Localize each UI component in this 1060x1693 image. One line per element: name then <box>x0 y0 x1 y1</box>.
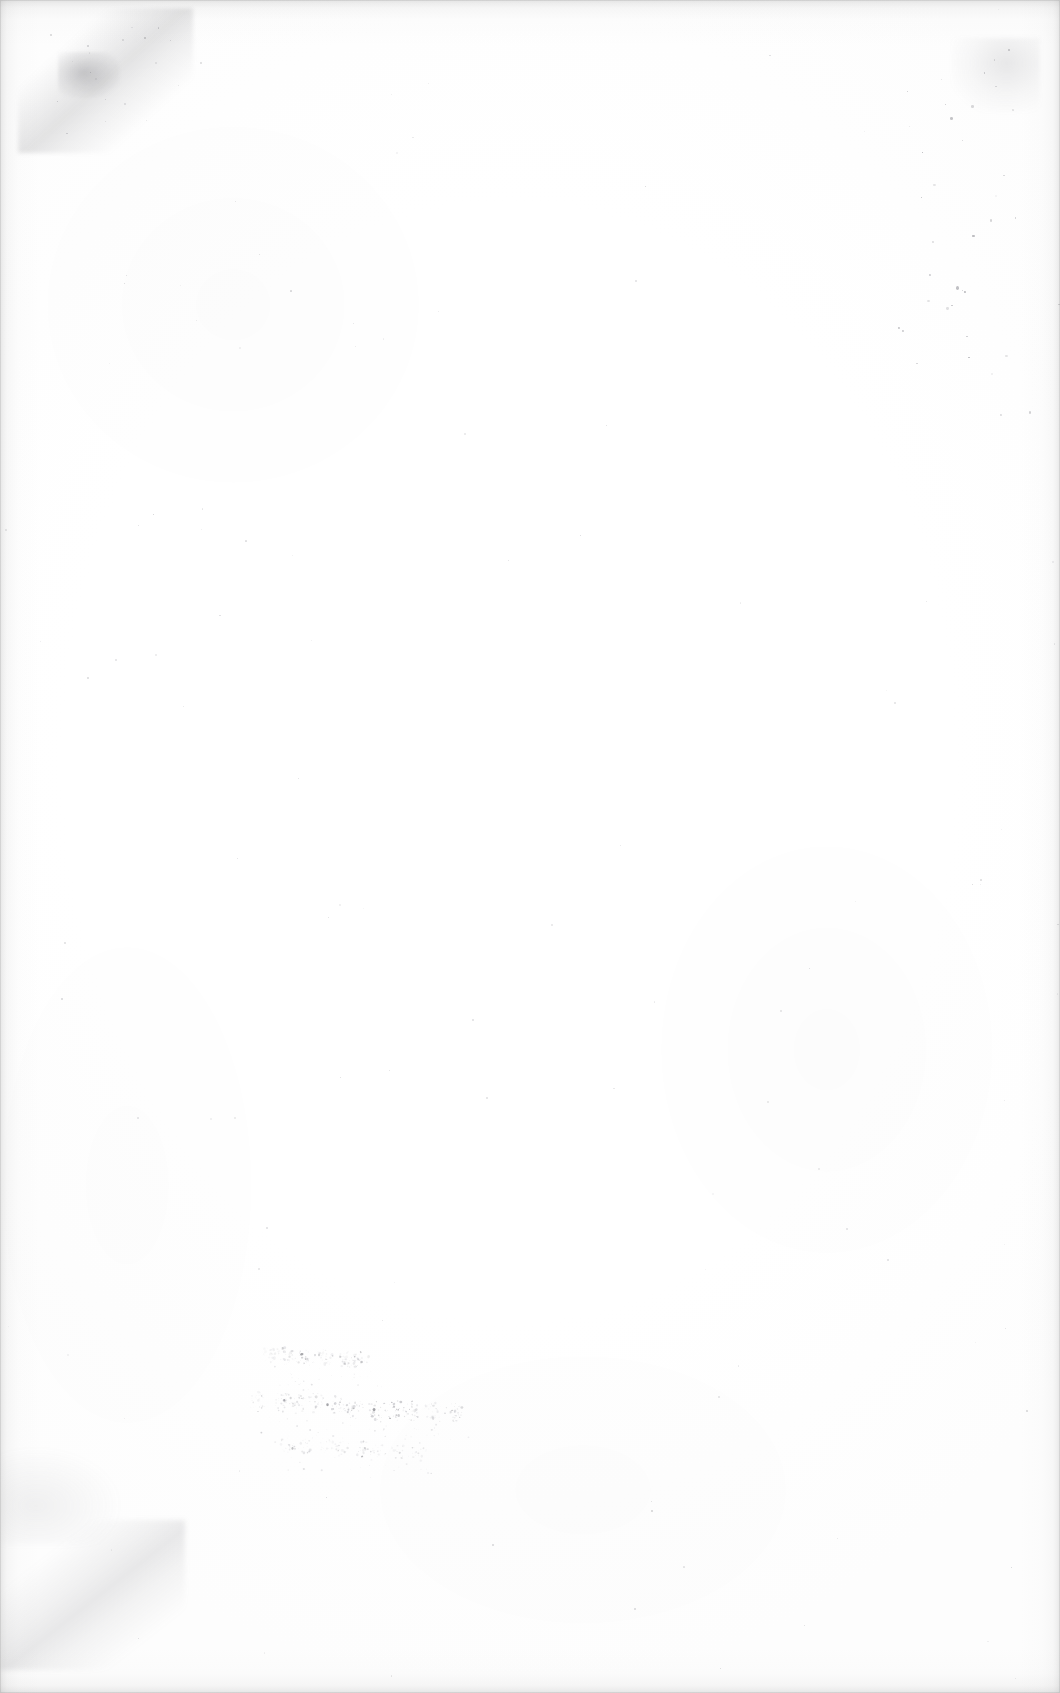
paper-tone-mottling <box>0 0 1060 1693</box>
scanned-page <box>0 0 1060 1693</box>
